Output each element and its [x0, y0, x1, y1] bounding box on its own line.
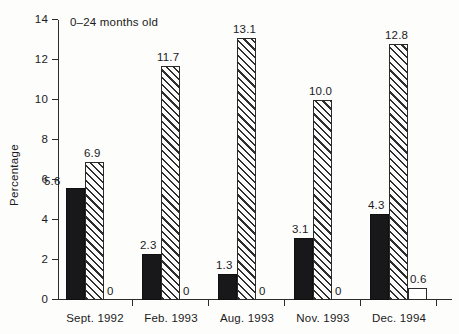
bar-label-g2-s2: 0 [259, 284, 266, 298]
y-tick-label-14: 14 [35, 11, 48, 27]
plot-area: 0–24 months old 0 2 4 6 8 10 12 14 [58, 20, 452, 300]
y-tick-14: 14 [52, 19, 58, 20]
y-tick-4: 4 [52, 219, 58, 220]
bar-g4-s0 [370, 214, 389, 300]
y-tick-12: 12 [52, 59, 58, 60]
x-tick-sep-3 [284, 300, 285, 306]
bar-g4-s1 [389, 44, 408, 300]
bar-label-g0-s2: 0 [107, 284, 114, 298]
x-category-3: Nov. 1993 [286, 312, 360, 324]
y-tick-0: 0 [52, 299, 58, 300]
bar-label-g1-s1: 11.7 [157, 50, 179, 64]
y-tick-2: 2 [52, 259, 58, 260]
bar-label-g2-s0: 1.3 [216, 258, 233, 272]
bar-label-g0-s1: 6.9 [84, 146, 101, 160]
bar-g2-s0 [218, 274, 237, 300]
x-category-2: Aug. 1993 [210, 312, 284, 324]
x-tick-sep-1 [132, 300, 133, 306]
bar-g2-s1 [237, 38, 256, 300]
bar-label-g4-s0: 4.3 [368, 198, 385, 212]
bar-label-g1-s2: 0 [183, 284, 190, 298]
y-tick-label-12: 12 [35, 51, 48, 67]
x-category-1: Feb. 1993 [134, 312, 208, 324]
y-tick-label-2: 2 [41, 251, 48, 267]
y-tick-label-8: 8 [41, 131, 48, 147]
bar-g4-s2 [408, 288, 427, 300]
x-category-0: Sept. 1992 [58, 312, 132, 324]
bar-g0-s0 [66, 188, 85, 300]
bar-label-g3-s1: 10.0 [309, 84, 332, 98]
y-tick-8: 8 [52, 139, 58, 140]
x-category-4: Dec. 1994 [362, 312, 436, 324]
bar-label-g4-s2: 0.6 [410, 272, 427, 286]
bar-g1-s1 [161, 66, 180, 300]
x-tick-sep-4 [360, 300, 361, 306]
plot-annotation: 0–24 months old [70, 16, 158, 28]
x-tick-sep-2 [208, 300, 209, 306]
bar-label-g1-s0: 2.3 [140, 238, 157, 252]
bar-label-g4-s1: 12.8 [385, 28, 408, 42]
chart-figure: Percentage 0–24 months old 0 2 4 6 8 10 … [0, 0, 459, 334]
bar-label-g3-s2: 0 [335, 284, 342, 298]
bar-g3-s1 [313, 100, 332, 300]
y-tick-label-4: 4 [41, 211, 48, 227]
bar-g0-s1 [85, 162, 104, 300]
y-tick-label-0: 0 [41, 291, 48, 307]
y-tick-label-10: 10 [35, 91, 48, 107]
bar-g3-s0 [294, 238, 313, 300]
y-axis-line [58, 20, 59, 300]
bar-label-g0-s0: 5.6 [44, 174, 61, 188]
x-tick-sep-5 [436, 300, 437, 306]
y-axis-title: Percentage [8, 144, 20, 206]
bar-g1-s0 [142, 254, 161, 300]
bar-label-g2-s1: 13.1 [233, 22, 256, 36]
y-tick-10: 10 [52, 99, 58, 100]
bar-label-g3-s0: 3.1 [292, 222, 309, 236]
